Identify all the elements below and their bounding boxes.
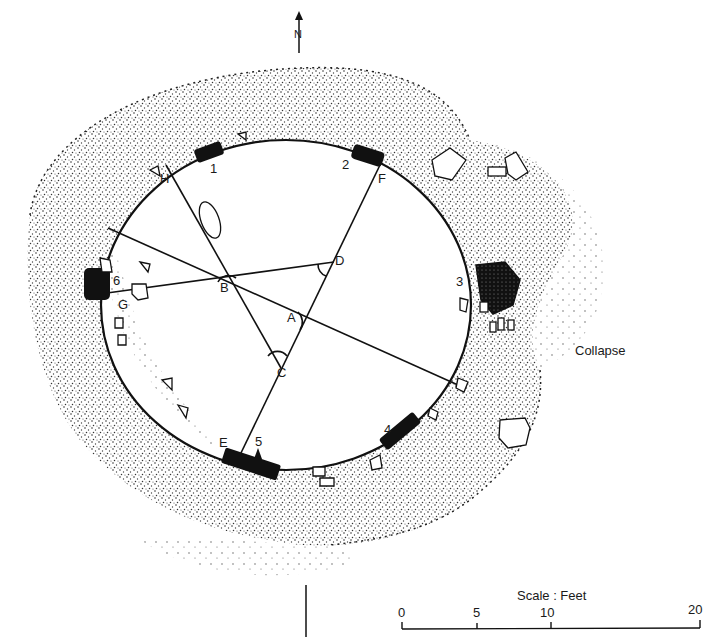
stone-circle-plan: N A B C D E F G H 1 2 3 4 5 6 Collapse S… — [0, 0, 712, 637]
label-E: E — [219, 435, 228, 450]
stone-number-3: 3 — [456, 274, 463, 289]
north-arrow: N — [294, 11, 303, 53]
label-A: A — [287, 310, 296, 325]
stone-6 — [84, 268, 110, 300]
stone-number-6: 6 — [113, 273, 120, 288]
scale-bar: Scale : Feet 0 5 10 20 — [398, 588, 702, 629]
scale-tick-5: 5 — [473, 605, 480, 620]
north-arrow-icon — [295, 11, 303, 20]
label-G: G — [118, 297, 128, 312]
scale-tick-0: 0 — [398, 605, 405, 620]
stone-number-5: 5 — [255, 434, 262, 449]
label-B: B — [220, 280, 229, 295]
collapse-label: Collapse — [575, 343, 626, 358]
scale-tick-10: 10 — [540, 605, 554, 620]
stone-number-4: 4 — [384, 422, 391, 437]
stone-number-1: 1 — [210, 161, 217, 176]
scale-title: Scale : Feet — [517, 588, 587, 603]
label-C: C — [277, 365, 286, 380]
label-D: D — [335, 253, 344, 268]
scale-tick-20: 20 — [688, 602, 702, 617]
label-F: F — [378, 171, 386, 186]
stone-number-2: 2 — [342, 157, 349, 172]
north-label: N — [294, 28, 302, 40]
label-H: H — [160, 171, 169, 186]
